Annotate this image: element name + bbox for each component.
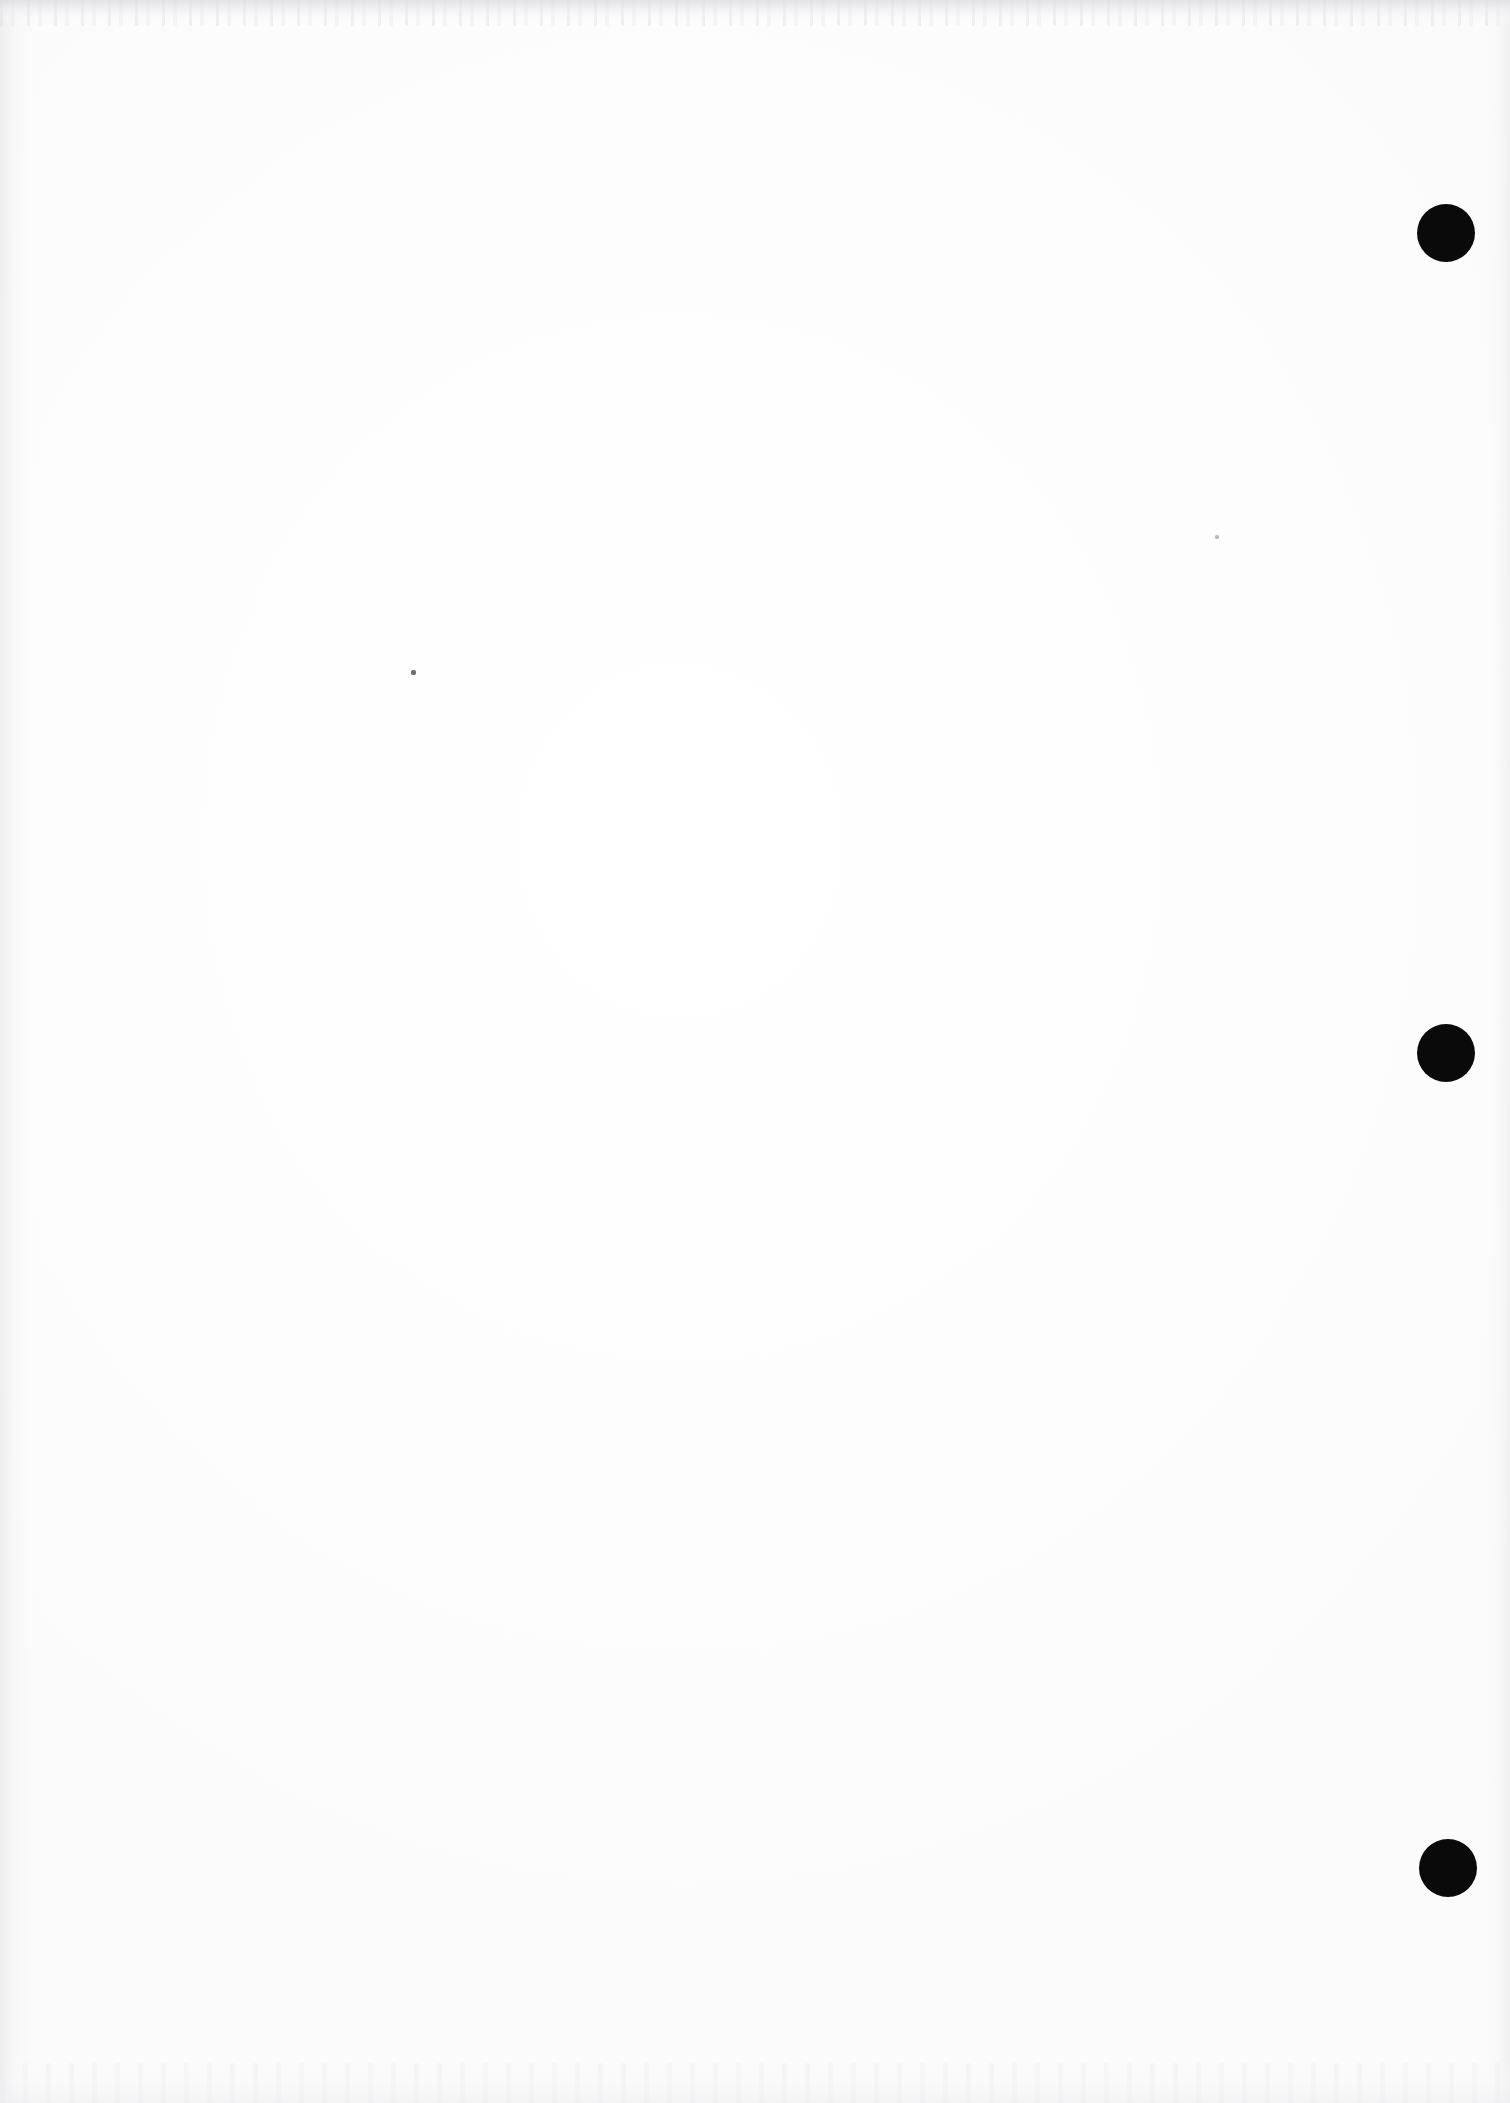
scan-streak-left-artifact: [0, 0, 34, 2103]
scan-noise-bottom-artifact: [0, 2063, 1510, 2103]
speck-right: [1215, 535, 1219, 539]
punch-mark-middle: [1417, 1024, 1475, 1082]
scanned-page: [0, 0, 1510, 2103]
scan-noise-top-artifact: [0, 0, 1510, 26]
speck-left: [411, 670, 416, 675]
scan-streak-right-artifact: [1484, 0, 1510, 2103]
punch-mark-bottom: [1419, 1839, 1477, 1897]
punch-mark-top: [1417, 204, 1475, 262]
